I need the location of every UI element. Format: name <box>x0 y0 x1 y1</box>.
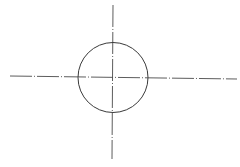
drawing-background <box>0 0 240 167</box>
technical-drawing <box>0 0 240 167</box>
